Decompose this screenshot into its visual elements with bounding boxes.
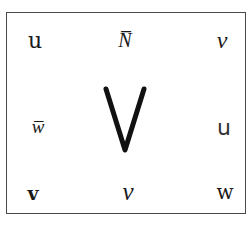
glyph-v-script: v [122,179,133,204]
glyph-nu-script: ν [217,28,228,52]
glyph-w-serif: w [216,182,233,202]
glyph-n-script: N̅ [118,30,131,50]
glyph-w-script: w̅ [32,117,45,136]
large-v-glyph [102,86,148,154]
glyph-u-sans: u [217,117,231,139]
glyph-u-serif: u [28,30,42,52]
glyph-v-serif-bold: v [27,184,38,203]
